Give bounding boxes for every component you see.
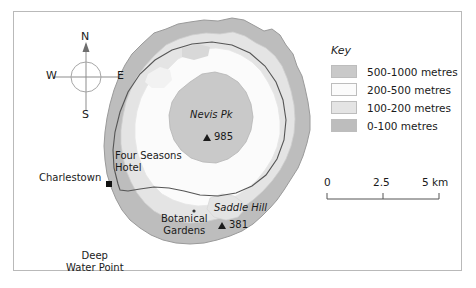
key-row: 100-200 metres xyxy=(331,99,476,116)
scale-bar: 0 2.5 5 km xyxy=(324,176,454,206)
compass-rose: N S W E xyxy=(46,30,126,125)
label-saddle-hill-elevation: 381 xyxy=(218,219,248,231)
key-swatch-200-500 xyxy=(331,83,357,96)
key-label-0-100: 0-100 metres xyxy=(367,120,438,132)
peak-triangle-icon xyxy=(218,222,226,229)
key-title: Key xyxy=(331,44,476,57)
saddle-elevation-value: 381 xyxy=(229,219,248,230)
label-four-seasons-line1: Four Seasons xyxy=(115,150,182,162)
scale-tick-label-0: 0 xyxy=(324,176,331,188)
label-deep-water-line1: Deep xyxy=(66,250,124,262)
key-row: 0-100 metres xyxy=(331,117,476,134)
key-row: 500-1000 metres xyxy=(331,63,476,80)
label-nevis-peak-elevation: 985 xyxy=(203,131,233,143)
charlestown-marker xyxy=(106,181,112,187)
label-deep-water-point: Deep Water Point xyxy=(66,250,124,274)
compass-east-label: E xyxy=(117,69,124,82)
compass-south-label: S xyxy=(82,108,89,121)
key-label-100-200: 100-200 metres xyxy=(367,102,451,114)
label-four-seasons-hotel: Four Seasons Hotel xyxy=(115,150,182,174)
scale-bar-line xyxy=(324,191,454,205)
key-swatch-500-1000 xyxy=(331,65,357,78)
label-saddle-hill: Saddle Hill xyxy=(214,202,267,214)
peak-triangle-icon xyxy=(203,134,211,141)
label-botanical-gardens: Botanical Gardens xyxy=(161,213,208,237)
label-charlestown: Charlestown xyxy=(39,172,101,184)
scale-tick-label-mid: 2.5 xyxy=(373,176,390,188)
compass-west-label: W xyxy=(46,69,57,82)
key-label-500-1000: 500-1000 metres xyxy=(367,66,458,78)
key-label-200-500: 200-500 metres xyxy=(367,84,451,96)
map-frame: N S W E Charlestown Four Seasons Hotel D… xyxy=(13,11,462,271)
nevis-elevation-value: 985 xyxy=(214,131,233,142)
label-botanical-line2: Gardens xyxy=(161,225,208,237)
label-botanical-line1: Botanical xyxy=(161,213,208,225)
key-swatch-0-100 xyxy=(331,119,357,132)
label-deep-water-line2: Water Point xyxy=(66,262,124,274)
scale-tick-label-max: 5 km xyxy=(422,176,448,188)
label-four-seasons-line2: Hotel xyxy=(115,162,182,174)
key-swatch-100-200 xyxy=(331,101,357,114)
key-row: 200-500 metres xyxy=(331,81,476,98)
map-key: Key 500-1000 metres 200-500 metres 100-2… xyxy=(331,44,476,135)
label-nevis-peak: Nevis Pk xyxy=(190,109,233,121)
compass-north-label: N xyxy=(81,30,89,43)
